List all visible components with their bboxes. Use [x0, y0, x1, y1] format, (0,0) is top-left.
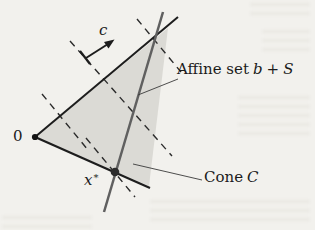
xstar-label: x* — [84, 172, 98, 189]
origin-point-dot — [32, 134, 38, 140]
cone-label-text: Cone — [204, 168, 243, 186]
xstar-point-dot — [111, 168, 120, 177]
origin-label: 0 — [13, 128, 23, 145]
xstar-label-superscript: * — [93, 172, 98, 183]
affine-set-label: Affine setb+S — [177, 61, 293, 78]
affine-set-label-S: S — [283, 60, 293, 78]
diagram-svg — [0, 0, 315, 230]
affine-set-label-b: b — [253, 60, 263, 78]
cone-label: ConeC — [204, 169, 259, 186]
c-vector-arrowhead-icon — [104, 40, 115, 49]
c-vector-label: c — [99, 22, 107, 39]
c-vector-shaft — [86, 44, 108, 58]
xstar-label-base: x — [84, 171, 92, 189]
affine-set-label-plus: + — [267, 60, 280, 78]
figure-canvas: 0 c x* Affine setb+S ConeC — [0, 0, 315, 230]
cone-label-C: C — [247, 168, 258, 186]
affine-set-label-text: Affine set — [177, 60, 249, 78]
cone-shaded-region — [35, 28, 168, 186]
